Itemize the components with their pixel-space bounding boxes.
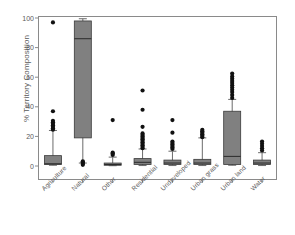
- outlier-point: [170, 118, 174, 122]
- outlier-point: [111, 118, 115, 122]
- outlier-point: [51, 109, 55, 113]
- outlier-point: [140, 108, 144, 112]
- outlier-point: [140, 88, 144, 92]
- outlier-point: [51, 119, 55, 123]
- outlier-point: [140, 131, 144, 135]
- outlier-point: [200, 128, 204, 132]
- outlier-point: [140, 125, 144, 129]
- outlier-point: [51, 20, 55, 24]
- box: [164, 160, 181, 164]
- box: [44, 156, 61, 165]
- outlier-point: [111, 151, 115, 155]
- outlier-point: [230, 71, 234, 75]
- box: [134, 159, 151, 165]
- box: [194, 159, 211, 164]
- outlier-point: [260, 139, 264, 143]
- boxplot-figure: 020406080100 % Territory Composition Agr…: [0, 0, 295, 235]
- outlier-point: [170, 131, 174, 135]
- box: [254, 160, 271, 164]
- outlier-point: [170, 139, 174, 143]
- boxplot-canvas: [0, 0, 295, 235]
- outlier-point: [81, 159, 85, 163]
